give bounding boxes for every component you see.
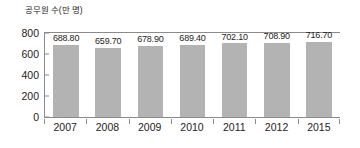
y-axis-title: 공무원 수(만 명) [25, 5, 82, 15]
x-axis-tick-text: 2008 [96, 121, 119, 133]
plot-area: 0200400600800 688.80659.70678.90689.4070… [44, 32, 340, 118]
x-axis-tick-text: 2011 [223, 121, 246, 133]
x-axis-divider [129, 119, 130, 124]
bar-value-label: 716.70 [306, 30, 332, 40]
x-axis-divider [339, 119, 340, 124]
bar-group: 689.40 [171, 33, 213, 117]
x-axis-tick-text: 2015 [307, 121, 330, 133]
bars-layer: 688.80659.70678.90689.40702.10708.90716.… [45, 33, 340, 117]
bar-value-label: 708.90 [264, 31, 290, 41]
x-axis-tick-label: 2007 [44, 120, 86, 136]
x-axis-tick-label: 2011 [213, 120, 255, 136]
x-axis-tick-label: 2010 [171, 120, 213, 136]
bar-group: 678.90 [129, 33, 171, 117]
bar [180, 45, 206, 117]
bar [53, 45, 79, 117]
bar-value-label: 688.80 [53, 33, 79, 43]
bar-value-label: 689.40 [179, 33, 205, 43]
y-axis-tick-label: 600 [0, 49, 45, 60]
x-axis-tick-label: 2009 [129, 120, 171, 136]
x-axis-tick-text: 2007 [53, 121, 76, 133]
x-axis-divider [44, 119, 45, 124]
bar [306, 42, 332, 117]
bar-group: 688.80 [45, 33, 87, 117]
x-axis-tick-label: 2012 [255, 120, 297, 136]
x-axis-divider [171, 119, 172, 124]
x-axis-divider [213, 119, 214, 124]
y-axis-tick-label: 800 [0, 28, 45, 39]
bar-value-label: 678.90 [137, 34, 163, 44]
bar-value-label: 702.10 [221, 32, 247, 42]
bar-group: 659.70 [87, 33, 129, 117]
x-axis-divider [298, 119, 299, 124]
x-axis-divider [86, 119, 87, 124]
bar [264, 43, 290, 117]
bar-group: 716.70 [298, 33, 340, 117]
y-axis-tick-label: 400 [0, 70, 45, 81]
y-axis-tick-label: 200 [0, 91, 45, 102]
bar-chart-figure: 공무원 수(만 명) 0200400600800 688.80659.70678… [0, 0, 360, 148]
x-axis-tick-label: 2008 [86, 120, 128, 136]
bar [222, 43, 248, 117]
x-axis-tick-text: 2010 [180, 121, 203, 133]
x-axis-tick-label: 2015 [298, 120, 340, 136]
bar [95, 48, 121, 117]
y-axis-tick-label: 0 [0, 112, 45, 123]
bar-value-label: 659.70 [95, 36, 121, 46]
x-axis-tick-text: 2009 [138, 121, 161, 133]
x-axis-divider [255, 119, 256, 124]
bar-group: 708.90 [256, 33, 298, 117]
bar [138, 46, 164, 117]
bar-group: 702.10 [214, 33, 256, 117]
x-axis-labels: 2007200820092010201120122015 [44, 120, 340, 136]
x-axis-tick-text: 2012 [265, 121, 288, 133]
